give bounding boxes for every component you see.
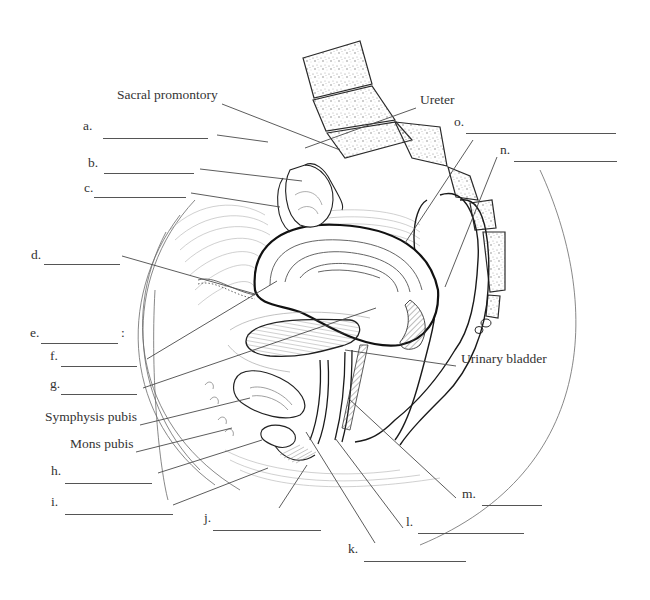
leader-line-d: [122, 256, 255, 294]
anatomy-diagram: Sacral promontory Ureter Urinary bladder…: [0, 0, 650, 600]
bladder: [246, 319, 360, 356]
leader-line-k: [306, 432, 375, 543]
blank-field-h[interactable]: [65, 483, 152, 484]
blank-letter-f: f.: [50, 348, 58, 364]
blank-field-d[interactable]: [44, 264, 120, 265]
blank-field-o[interactable]: [466, 133, 616, 134]
blank-letter-e: e.: [30, 325, 39, 341]
label-symphysis-pubis: Symphysis pubis: [45, 409, 137, 425]
symphysis: [234, 371, 305, 418]
blank-letter-h: h.: [51, 463, 61, 479]
blank-field-i[interactable]: [65, 514, 173, 515]
round-ligament: [198, 279, 255, 299]
blank-field-e[interactable]: [41, 343, 118, 344]
blank-letter-c: c.: [84, 180, 93, 196]
blank-letter-o: o.: [454, 114, 464, 130]
leader-line-i: [173, 468, 268, 505]
vaginal-rugae: [342, 345, 368, 430]
fat-lobules: [205, 382, 233, 436]
blank-field-m[interactable]: [482, 505, 542, 506]
blank-field-c[interactable]: [94, 197, 186, 198]
ovary-tube: [278, 164, 343, 232]
blank-field-n[interactable]: [514, 161, 617, 162]
blank-letter-n: n.: [500, 142, 510, 158]
blank-letter-a: a.: [83, 118, 92, 134]
label-sacral-promontory: Sacral promontory: [117, 87, 218, 103]
blank-field-j[interactable]: [213, 530, 321, 531]
blank-letter-j: j.: [204, 510, 211, 526]
blank-suffix-e: :: [121, 325, 125, 341]
blank-letter-d: d.: [31, 247, 41, 263]
blank-letter-i: i.: [51, 494, 58, 510]
blank-letter-g: g.: [50, 376, 60, 392]
blank-field-l[interactable]: [418, 533, 524, 534]
leader-line-c: [191, 193, 280, 207]
leader-line-l: [335, 438, 403, 528]
blank-letter-k: k.: [348, 541, 358, 557]
label-mons-pubis: Mons pubis: [70, 436, 133, 452]
blank-field-f[interactable]: [61, 366, 137, 367]
leader-line-a: [217, 135, 268, 142]
label-ureter: Ureter: [420, 92, 454, 108]
blank-letter-l: l.: [406, 514, 413, 530]
blank-field-g[interactable]: [61, 394, 137, 395]
blank-letter-b: b.: [88, 155, 98, 171]
leader-line-j: [279, 465, 307, 508]
blank-field-a[interactable]: [103, 138, 208, 139]
pelvis-illustration: [0, 0, 650, 600]
label-urinary-bladder: Urinary bladder: [461, 351, 547, 367]
labia: [261, 425, 315, 460]
blank-letter-m: m.: [462, 486, 476, 502]
blank-field-b[interactable]: [104, 173, 194, 174]
leader-line-mons-pubis: [136, 428, 232, 452]
vagina-urethra: [310, 350, 352, 444]
blank-field-k[interactable]: [364, 561, 466, 562]
leader-line-b: [200, 169, 302, 181]
